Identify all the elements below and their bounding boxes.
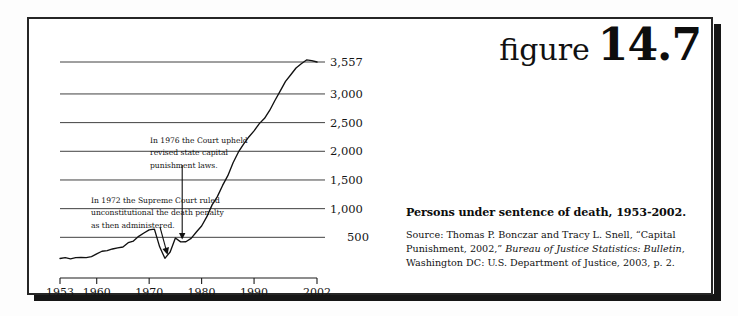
annotation-arrow-1976-head [179, 233, 185, 240]
annotation-1976-line2: revised state capital [150, 147, 248, 159]
caption-source: Source: Thomas P. Bonczar and Tracy L. S… [406, 228, 706, 271]
figure-caption: Persons under sentence of death, 1953-20… [406, 205, 706, 271]
annotation-1976-line1: In 1976 the Court upheld [150, 135, 248, 147]
x-axis-tick-label: 1990 [240, 286, 268, 299]
annotation-1976: In 1976 the Court upheld revised state c… [150, 135, 248, 172]
annotation-1976-line3: punishment laws. [150, 160, 248, 172]
y-axis-tick-label: 3,000 [330, 87, 374, 101]
figure-shadow-right [714, 24, 721, 300]
caption-title: Persons under sentence of death, 1953-20… [406, 205, 706, 219]
x-axis-tick-label: 1960 [83, 286, 111, 299]
caption-source-italic: Bureau of Justice Statistics: Bulletin [505, 243, 681, 254]
y-axis-tick-label: 1,000 [330, 202, 374, 216]
figure-frame: figure 14.7 5001,0001,5002,0002,5003,000… [27, 17, 713, 295]
annotation-1972-line3: as then administered. [91, 220, 224, 232]
annotation-1972-line1: In 1972 the Supreme Court ruled [91, 195, 224, 207]
y-axis-tick-label: 500 [325, 230, 369, 244]
y-axis-tick-label: 2,500 [330, 116, 374, 130]
x-axis-tick-label: 1970 [135, 286, 163, 299]
x-axis-tick-label: 1953 [46, 286, 74, 299]
y-axis-tick-label: 1,500 [330, 173, 374, 187]
page-canvas: figure 14.7 5001,0001,5002,0002,5003,000… [0, 0, 738, 316]
annotation-1972: In 1972 the Supreme Court ruled unconsti… [91, 195, 224, 232]
x-axis-tick-label: 1980 [188, 286, 216, 299]
y-axis-tick-label: 2,000 [330, 144, 374, 158]
x-axis-tick-label: 2002 [303, 286, 331, 299]
annotation-1972-line2: unconstitutional the death penalty [91, 207, 224, 219]
y-axis-tick-label: 3,557 [330, 55, 374, 69]
